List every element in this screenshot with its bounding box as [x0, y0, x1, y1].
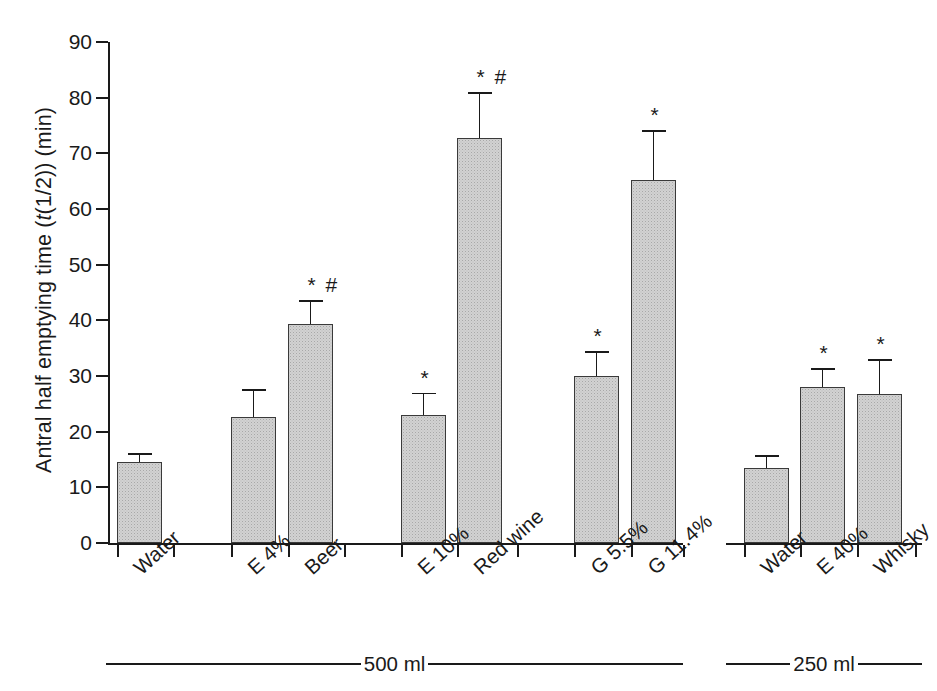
y-tick-50 [96, 264, 108, 266]
error-bar-cap-8 [811, 368, 835, 370]
y-tick-80 [96, 97, 108, 99]
error-bar-cap-1 [242, 389, 266, 391]
y-tick-label-20: 20 [34, 421, 92, 442]
bar-red-wine-4 [457, 138, 502, 543]
error-bar-cap-6 [642, 130, 666, 132]
error-bar-stem-9 [879, 359, 881, 394]
y-tick-20 [96, 431, 108, 433]
significance-mark-2: * # [308, 274, 340, 295]
y-tick-label-30: 30 [34, 365, 92, 386]
y-tick-70 [96, 152, 108, 154]
bar-beer-2 [288, 324, 333, 543]
y-tick-30 [96, 375, 108, 377]
bar-chart-figure: Antral half emptying time (t(1/2)) (min)… [0, 0, 937, 691]
group-bracket-250ml: 250 ml [726, 652, 922, 676]
error-bar-cap-5 [585, 351, 609, 353]
bracket-line-right [858, 663, 922, 665]
bar-whisky-9 [857, 394, 902, 543]
significance-mark-4: * # [477, 66, 509, 87]
significance-mark-3: * [421, 367, 431, 388]
group-label-500ml: 500 ml [361, 654, 429, 675]
bar-water-7 [744, 468, 789, 543]
bar-g-11-4-6 [631, 180, 676, 543]
y-tick-label-10: 10 [34, 476, 92, 497]
y-tick-label-60: 60 [34, 198, 92, 219]
error-bar-cap-4 [468, 92, 492, 94]
bar-g-5-5-5 [574, 376, 619, 543]
significance-mark-6: * [651, 104, 661, 125]
group-bracket-500ml: 500 ml [106, 652, 683, 676]
bar-water-0 [117, 462, 162, 543]
y-tick-40 [96, 319, 108, 321]
y-tick-10 [96, 486, 108, 488]
bracket-line-left [106, 663, 361, 665]
group-label-250ml: 250 ml [790, 654, 858, 675]
error-bar-stem-7 [766, 455, 768, 468]
error-bar-cap-3 [412, 393, 436, 395]
x-tick-5 [401, 545, 403, 557]
error-bar-cap-9 [868, 359, 892, 361]
error-bar-stem-2 [310, 300, 312, 324]
error-bar-cap-0 [128, 453, 152, 455]
y-tick-90 [96, 41, 108, 43]
y-axis-line [108, 42, 110, 545]
x-tick-11 [744, 545, 746, 557]
y-tick-0 [96, 542, 108, 544]
significance-mark-8: * [820, 342, 830, 363]
bracket-line-right [428, 663, 683, 665]
y-tick-label-90: 90 [34, 31, 92, 52]
y-tick-label-0: 0 [34, 532, 92, 553]
y-tick-label-80: 80 [34, 87, 92, 108]
x-tick-2 [231, 545, 233, 557]
bar-e-40-8 [800, 387, 845, 543]
y-tick-label-50: 50 [34, 254, 92, 275]
x-axis-line-500ml [108, 543, 683, 545]
x-tick-8 [574, 545, 576, 557]
error-bar-cap-7 [755, 455, 779, 457]
y-tick-label-40: 40 [34, 309, 92, 330]
error-bar-stem-3 [423, 393, 425, 415]
significance-mark-5: * [594, 325, 604, 346]
error-bar-cap-2 [299, 300, 323, 302]
x-tick-0 [117, 545, 119, 557]
error-bar-stem-8 [822, 368, 824, 386]
significance-mark-9: * [877, 333, 887, 354]
y-tick-60 [96, 208, 108, 210]
bar-e-4-1 [231, 417, 276, 543]
error-bar-stem-4 [479, 92, 481, 138]
error-bar-stem-1 [253, 389, 255, 417]
y-tick-label-70: 70 [34, 142, 92, 163]
bracket-line-left [726, 663, 790, 665]
error-bar-stem-5 [596, 351, 598, 376]
error-bar-stem-6 [653, 130, 655, 180]
bar-e-10-3 [401, 415, 446, 543]
